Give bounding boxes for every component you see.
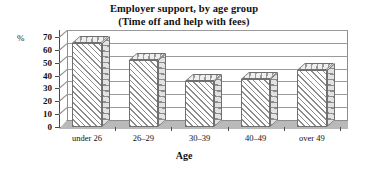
bar-side-face — [270, 72, 278, 127]
bar-front-face — [297, 70, 326, 127]
bar-side-face — [102, 36, 110, 127]
chart-title-block: Employer support, by age group (Time off… — [0, 3, 368, 28]
y-axis-tick-label: 70 — [43, 33, 52, 42]
gridline — [67, 30, 348, 31]
y-axis-tick-label: 40 — [43, 71, 52, 80]
bar — [129, 60, 158, 127]
plot-area — [59, 37, 340, 127]
y-axis-unit-label: % — [17, 33, 25, 43]
y-axis-tick-mark — [55, 127, 59, 128]
chart-title: Employer support, by age group — [0, 3, 368, 16]
bar-front-face — [241, 79, 270, 127]
x-axis-tick-label: 26–29 — [133, 133, 154, 143]
x-axis-tick-label: over 49 — [299, 133, 325, 143]
y-axis-tick-mark — [55, 50, 59, 51]
y-axis-tick-mark — [55, 37, 59, 38]
x-axis-title: Age — [0, 150, 368, 161]
bar-side-face — [158, 53, 166, 127]
y-axis-tick-mark — [55, 114, 59, 115]
y-axis-tick-mark — [55, 88, 59, 89]
y-axis-tick-mark — [55, 101, 59, 102]
x-axis-tick-mark — [115, 127, 116, 131]
y-axis-tick-label: 50 — [43, 58, 52, 67]
bar-front-face — [129, 60, 158, 127]
x-axis-tick-mark — [340, 127, 341, 131]
bar — [241, 79, 270, 127]
bar — [185, 81, 214, 127]
x-axis-tick-label: 30–39 — [189, 133, 210, 143]
bar — [72, 43, 101, 127]
y-axis-tick-label: 30 — [43, 84, 52, 93]
chart-subtitle: (Time off and help with fees) — [0, 16, 368, 29]
y-axis-tick-mark — [55, 63, 59, 64]
bar — [297, 70, 326, 127]
bar-front-face — [185, 81, 214, 127]
x-axis-tick-mark — [284, 127, 285, 131]
x-axis-tick-mark — [171, 127, 172, 131]
x-axis-tick-mark — [228, 127, 229, 131]
bar-side-face — [214, 74, 222, 127]
bar-front-face — [72, 43, 101, 127]
bar-chart: Employer support, by age group (Time off… — [0, 0, 368, 175]
x-axis-tick-label: 40–49 — [245, 133, 266, 143]
x-axis-tick-label: under 26 — [72, 133, 102, 143]
y-axis-tick-label: 60 — [43, 45, 52, 54]
bar-side-face — [327, 63, 335, 127]
y-axis-tick-labels: 010203040506070 — [28, 0, 52, 175]
y-axis-tick-label: 10 — [43, 110, 52, 119]
y-axis-tick-label: 20 — [43, 97, 52, 106]
y-axis-tick-label: 0 — [48, 123, 53, 132]
y-axis-tick-mark — [55, 76, 59, 77]
